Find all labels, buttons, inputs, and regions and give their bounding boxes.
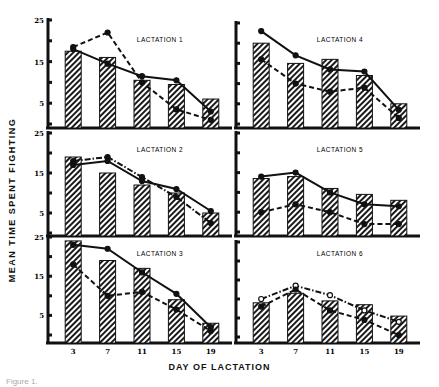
data-point (293, 53, 298, 58)
y-tick (49, 39, 52, 42)
y-tick (49, 19, 52, 22)
x-tick-label: 11 (325, 347, 335, 356)
data-point (105, 30, 110, 35)
bar (100, 57, 116, 128)
data-point (208, 117, 213, 122)
bar (134, 268, 150, 343)
bar (100, 173, 116, 236)
data-point (140, 175, 145, 180)
data-point (293, 170, 298, 175)
x-tick-label: 7 (105, 347, 110, 356)
y-tick (49, 334, 52, 337)
data-point (396, 319, 401, 324)
y-tick (49, 232, 52, 235)
panel-title: LACTATION 5 (317, 146, 363, 153)
y-tick-label: 15 (34, 58, 44, 67)
x-tick-label: 11 (137, 347, 147, 356)
y-tick (237, 211, 240, 214)
y-tick (49, 152, 52, 155)
bar (65, 157, 81, 236)
panel-lactation-3: 25155LACTATION 337111519 (34, 233, 232, 356)
x-tick-label: 3 (259, 347, 264, 356)
data-point (396, 222, 401, 227)
data-point (259, 210, 264, 215)
y-tick (49, 314, 52, 317)
bar (356, 194, 372, 236)
y-tick-label: 15 (34, 272, 44, 281)
data-point (71, 159, 76, 164)
y-tick (237, 231, 240, 234)
y-tick (49, 255, 52, 258)
y-tick (49, 123, 52, 126)
bar (288, 293, 304, 343)
bar (100, 261, 116, 343)
data-point (140, 80, 145, 85)
data-point (328, 210, 333, 215)
data-point (362, 308, 367, 313)
lactation-fighting-figure: 25155LACTATION 1LACTATION 425155LACTATIO… (0, 0, 439, 387)
data-point (362, 202, 367, 207)
y-tick (237, 62, 240, 65)
y-tick (237, 22, 240, 25)
y-tick-label: 25 (34, 129, 44, 138)
data-point (259, 57, 264, 62)
data-point (293, 202, 298, 207)
x-tick-label: 15 (360, 347, 370, 356)
y-tick (237, 241, 240, 244)
data-point (396, 115, 401, 120)
y-tick-label: 5 (39, 209, 44, 218)
data-point (259, 29, 264, 34)
x-axis-label: DAY OF LACTATION (0, 362, 439, 372)
y-tick (237, 171, 240, 174)
y-tick (237, 42, 240, 45)
y-tick (237, 298, 240, 301)
data-point (328, 190, 333, 195)
data-point (328, 89, 333, 94)
y-tick (49, 294, 52, 297)
data-point (140, 270, 145, 275)
y-tick (49, 236, 52, 239)
data-point (71, 242, 76, 247)
y-tick (49, 102, 52, 105)
data-point (105, 155, 110, 160)
y-tick (237, 336, 240, 339)
data-point (293, 287, 298, 292)
data-point (259, 297, 264, 302)
data-point (174, 291, 179, 296)
data-point (174, 107, 179, 112)
data-point (328, 67, 333, 72)
panel-lactation-6: LACTATION 637111519 (234, 240, 420, 356)
y-tick (237, 123, 240, 126)
y-tick (237, 102, 240, 105)
y-tick (49, 60, 52, 63)
y-tick-label: 25 (34, 16, 44, 25)
y-tick (237, 191, 240, 194)
y-tick (237, 279, 240, 282)
figure-caption: Figure 1. (6, 377, 38, 386)
data-point (71, 262, 76, 267)
data-point (174, 78, 179, 83)
data-point (140, 289, 145, 294)
data-point (174, 187, 179, 192)
data-point (208, 221, 213, 226)
y-tick (237, 132, 240, 135)
data-point (362, 222, 367, 227)
y-axis-label: MEAN TIME SPENT FIGHTING (7, 118, 17, 283)
bar (168, 84, 184, 128)
y-tick-label: 25 (34, 233, 44, 242)
panel-title: LACTATION 2 (137, 146, 183, 153)
data-point (396, 333, 401, 338)
data-point (328, 293, 333, 298)
bar (134, 185, 150, 236)
bar (253, 43, 269, 128)
data-point (362, 69, 367, 74)
y-tick (237, 260, 240, 263)
data-point (362, 317, 367, 322)
y-tick (49, 192, 52, 195)
x-tick-label: 7 (293, 347, 298, 356)
panel-title: LACTATION 4 (317, 36, 363, 43)
y-tick (237, 317, 240, 320)
data-point (293, 81, 298, 86)
y-tick (237, 82, 240, 85)
data-point (71, 45, 76, 50)
